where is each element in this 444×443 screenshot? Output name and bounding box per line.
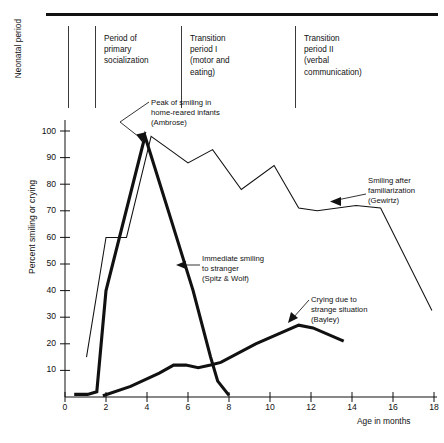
- leader-bayley: [293, 300, 309, 318]
- leader-ambrose: [120, 102, 149, 135]
- leader-lines: [120, 102, 366, 323]
- series-gewirtz: [87, 136, 432, 357]
- series-ambrose: [74, 136, 229, 395]
- arrowhead-spitz: [176, 261, 186, 269]
- arrowhead-gewirtz: [330, 197, 341, 206]
- leader-gewirtz: [337, 194, 366, 200]
- plot-area: [0, 0, 444, 443]
- series-bayley: [103, 325, 344, 396]
- chart-figure: Neonatal period Period of primary social…: [0, 0, 444, 443]
